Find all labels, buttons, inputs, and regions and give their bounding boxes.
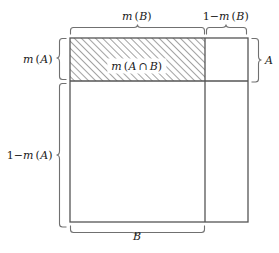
bracket-top-mb <box>71 25 205 35</box>
label-m-of-a: m(A) <box>23 54 53 65</box>
measure-theory-diagram: m(B) 1−m(B) m(A) 1−m(A) A B m(A∩B) <box>0 0 279 253</box>
bracket-right-a <box>252 39 262 83</box>
label-m-of-a-intersect-b: m(A∩B) <box>107 59 166 74</box>
bracket-left-ma <box>57 39 67 80</box>
label-a: A <box>265 55 273 66</box>
diagram-canvas <box>0 0 279 253</box>
label-b: B <box>133 231 141 242</box>
bracket-left-one-minus-ma <box>57 84 67 228</box>
label-one-minus-m-of-b: 1−m(B) <box>203 11 249 22</box>
bracket-top-one-minus-mb <box>207 25 247 35</box>
label-m-of-b: m(B) <box>122 11 152 22</box>
label-one-minus-m-of-a: 1−m(A) <box>7 150 53 161</box>
